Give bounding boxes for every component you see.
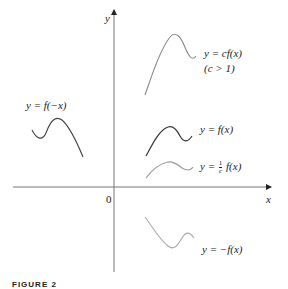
label-cf: y = cf(x) xyxy=(204,48,242,59)
curve-f-neg-x xyxy=(32,118,83,157)
curve-neg-f xyxy=(145,217,194,248)
label-f-over-c-prefix: y = xyxy=(200,160,215,172)
curve-f xyxy=(146,127,192,156)
curve-f-over-c xyxy=(146,162,193,178)
x-axis-label: x xyxy=(266,194,271,205)
fraction-numerator: 1 xyxy=(219,160,223,167)
figure-caption: FIGURE 2 xyxy=(12,281,57,289)
label-cf-condition: (c > 1) xyxy=(204,63,235,74)
fraction-one-over-c: 1 c xyxy=(219,160,223,175)
function-transform-diagram xyxy=(0,0,288,289)
curve-cf xyxy=(145,34,196,95)
origin-label: 0 xyxy=(106,194,112,205)
label-f: y = f(x) xyxy=(200,124,233,135)
label-f-neg-x: y = f(−x) xyxy=(26,100,67,111)
label-neg-f: y = −f(x) xyxy=(202,244,243,255)
label-f-over-c-suffix: f(x) xyxy=(226,160,241,172)
label-f-over-c: y = 1 c f(x) xyxy=(200,160,241,175)
fraction-denominator: c xyxy=(219,167,223,175)
y-axis-label: y xyxy=(105,13,110,24)
